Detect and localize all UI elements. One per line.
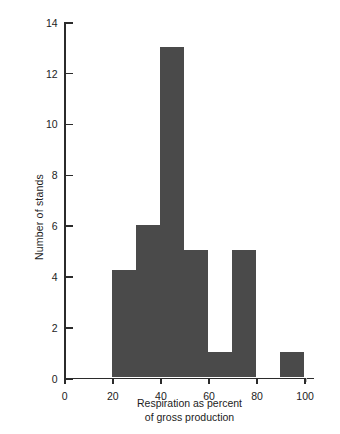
histogram-figure: Number of stands 02468101214 02040608010… <box>0 0 340 434</box>
y-axis-title: Number of stands <box>26 0 52 434</box>
page-speck <box>306 378 307 382</box>
x-axis-tick: 0 <box>64 378 66 384</box>
y-axis-tick: 6 <box>66 225 73 227</box>
histogram-bar <box>184 250 208 377</box>
y-axis-tick: 2 <box>66 327 73 329</box>
x-axis-tick: 60 <box>208 378 210 384</box>
x-axis-title-line2: of gross production <box>52 411 327 425</box>
y-axis-tick-label: 14 <box>46 17 58 29</box>
y-axis-tick-label: 4 <box>52 271 58 283</box>
y-axis-tick-label: 6 <box>52 220 58 232</box>
plot-area: 02468101214 020406080100 <box>64 22 314 378</box>
histogram-bar <box>160 47 184 378</box>
histogram-bar <box>232 250 256 377</box>
y-axis-tick: 10 <box>66 124 73 126</box>
y-axis-tick: 4 <box>66 276 73 278</box>
x-axis-line <box>64 378 314 380</box>
y-axis-line <box>64 22 66 379</box>
histogram-bar <box>136 225 160 378</box>
y-axis-tick: 14 <box>66 22 73 24</box>
histogram-bar <box>112 270 136 377</box>
x-axis-title: Respiration as percent of gross producti… <box>52 397 327 424</box>
x-axis-tick: 40 <box>160 378 162 384</box>
y-axis-tick-label: 2 <box>52 322 58 334</box>
y-axis-tick-label: 8 <box>52 169 58 181</box>
x-axis-tick: 20 <box>112 378 114 384</box>
x-axis-tick: 80 <box>256 378 258 384</box>
histogram-bar <box>280 352 304 377</box>
x-axis-title-line1: Respiration as percent <box>52 397 327 411</box>
histogram-bar <box>208 352 232 377</box>
y-axis-tick: 8 <box>66 175 73 177</box>
y-axis-tick-label: 12 <box>46 68 58 80</box>
y-axis-tick: 0 <box>66 378 73 380</box>
y-axis-tick-label: 10 <box>46 118 58 130</box>
y-axis-tick: 12 <box>66 73 73 75</box>
y-axis-tick-label: 0 <box>52 373 58 385</box>
